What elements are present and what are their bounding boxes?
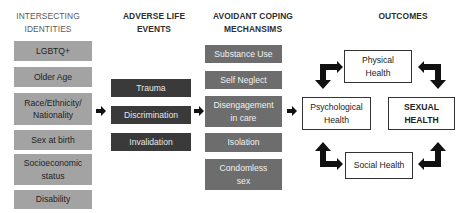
coping-substance-use: Substance Use: [205, 45, 282, 63]
arrow-right-icon: [287, 106, 297, 116]
identity-older-age: Older Age: [14, 67, 92, 87]
elbow-arrow-up-left-icon: [417, 141, 449, 173]
outcome-psychological-health: Psychological Health: [302, 97, 371, 130]
outcome-physical-health: Physical Health: [344, 50, 412, 83]
event-invalidation: Invalidation: [111, 133, 191, 151]
elbow-arrow-down-right-icon: [417, 58, 449, 90]
identity-sex-at-birth: Sex at birth: [14, 130, 92, 150]
coping-condomless-sex: Condomless sex: [205, 159, 282, 190]
header-adverse-life-events: ADVERSE LIFE EVENTS: [106, 10, 202, 36]
coping-disengagement: Disengagement in care: [205, 96, 282, 127]
header-avoidant-coping: AVOIDANT COPING MECHANSIMS: [198, 10, 308, 36]
coping-self-neglect: Self Neglect: [205, 71, 282, 89]
outcome-sexual-health: SEXUAL HEALTH: [388, 97, 455, 130]
identity-lgbtq: LGBTQ+: [14, 41, 92, 61]
coping-isolation: Isolation: [205, 133, 282, 152]
identity-disability: Disability: [14, 190, 92, 209]
identity-race-ethnicity: Race/Ethnicity/ Nationality: [14, 93, 92, 125]
header-outcomes: OUTCOMES: [358, 10, 448, 23]
arrow-right-icon: [96, 106, 106, 116]
header-intersecting-identities: INTERSECTING IDENTITIES: [0, 10, 96, 36]
identity-socioeconomic: Socioeconomic status: [14, 154, 92, 185]
outcome-social-health: Social Health: [345, 152, 413, 179]
elbow-arrow-up-right-icon: [312, 141, 344, 173]
event-discrimination: Discrimination: [111, 106, 191, 124]
arrow-right-icon: [194, 106, 204, 116]
event-trauma: Trauma: [111, 79, 191, 97]
elbow-arrow-down-left-icon: [312, 58, 344, 90]
